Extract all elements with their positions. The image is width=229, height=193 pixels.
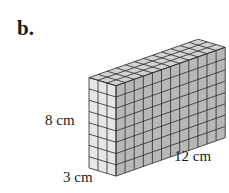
- height-dimension-label: 8 cm: [45, 112, 75, 129]
- width-dimension-label: 3 cm: [63, 169, 93, 186]
- length-dimension-label: 12 cm: [174, 148, 211, 165]
